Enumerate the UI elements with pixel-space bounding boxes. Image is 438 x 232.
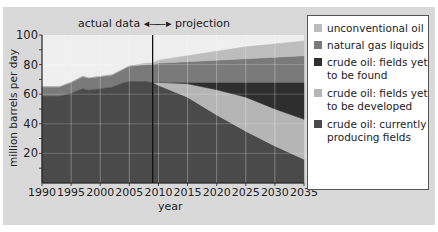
legend-item-currently-producing: crude oil: currentlyproducing fields [314, 118, 426, 143]
y-axis-label: million barrels per day [7, 48, 19, 168]
legend: unconventional oil natural gas liquids c… [307, 15, 429, 190]
x-tick-label: 2015 [174, 186, 202, 199]
legend-swatch [314, 24, 322, 32]
legend-label: crude oil: currentlyproducing fields [327, 118, 426, 143]
legend-item-natural-gas-liquids: natural gas liquids [314, 39, 424, 52]
x-tick-label: 1995 [57, 186, 85, 199]
legend-swatch [314, 58, 322, 66]
legend-label: natural gas liquids [327, 39, 424, 52]
x-tick-label: 2005 [115, 186, 143, 199]
legend-swatch [314, 41, 322, 49]
projection-annotation: —▸ projection [155, 17, 230, 30]
x-tick-label: 2020 [203, 186, 231, 199]
legend-swatch [314, 120, 322, 128]
x-tick-label: 2025 [232, 186, 260, 199]
legend-item-fields-to-be-developed: crude oil: fields yetto be developed [314, 87, 428, 112]
x-tick-label: 2010 [144, 186, 172, 199]
y-tick-label: 100 [16, 28, 38, 42]
x-tick-label: 2030 [261, 186, 289, 199]
legend-label: crude oil: fields yetto be developed [327, 87, 428, 112]
legend-item-unconventional-oil: unconventional oil [314, 22, 424, 35]
y-tick-label: 60 [23, 87, 38, 101]
y-tick-label: 40 [23, 117, 38, 131]
x-tick-label: 2000 [86, 186, 114, 199]
legend-swatch [314, 89, 322, 97]
y-tick-label: 80 [23, 58, 38, 72]
x-axis-label: year [158, 200, 183, 213]
legend-item-fields-to-be-found: crude oil: fields yetto be found [314, 56, 428, 81]
projection-label: projection [175, 17, 230, 30]
right-arrow-icon: —▸ [155, 17, 172, 30]
legend-label: unconventional oil [327, 22, 424, 35]
actual-data-annotation: actual data ◂— [78, 17, 160, 30]
x-tick-label: 1990 [28, 186, 56, 199]
y-tick-label: 20 [23, 146, 38, 160]
actual-data-label: actual data [78, 17, 140, 30]
legend-label: crude oil: fields yetto be found [327, 56, 428, 81]
